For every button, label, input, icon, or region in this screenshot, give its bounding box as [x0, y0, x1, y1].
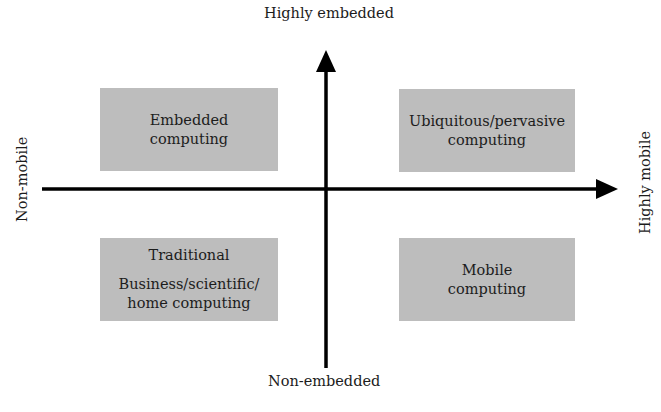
- quadrant-title: Traditional: [149, 246, 230, 265]
- right-arrow-icon: [596, 179, 618, 199]
- up-arrow-icon: [316, 50, 336, 72]
- quadrant-text-line: Embedded: [150, 111, 229, 130]
- quadrant-text-line: Ubiquitous/pervasive: [409, 112, 565, 131]
- quadrant-mobile-computing: Mobile computing: [399, 238, 575, 321]
- quadrant-text-line: computing: [448, 280, 526, 299]
- quadrant-ubiquitous-computing: Ubiquitous/pervasive computing: [399, 89, 575, 172]
- label-highly-embedded: Highly embedded: [264, 5, 394, 21]
- quadrant-text-line: home computing: [127, 294, 250, 313]
- axes: [0, 0, 661, 412]
- label-non-mobile: Non-mobile: [14, 150, 30, 222]
- quadrant-text-line: computing: [448, 131, 526, 150]
- quadrant-text-line: computing: [150, 130, 228, 149]
- label-highly-mobile: Highly mobile: [637, 138, 653, 234]
- label-non-embedded: Non-embedded: [268, 373, 380, 389]
- quadrant-traditional-computing: Traditional Business/scientific/ home co…: [100, 238, 278, 321]
- quadrant-embedded-computing: Embedded computing: [100, 88, 278, 171]
- quadrant-text-line: Mobile: [462, 261, 513, 280]
- quadrant-text-line: Business/scientific/: [118, 275, 259, 294]
